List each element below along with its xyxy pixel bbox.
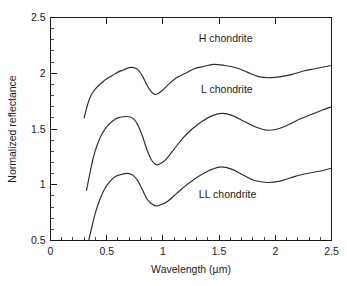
y-tick-label: 0.5 [31, 234, 46, 246]
series-curve-l-chondrite [86, 107, 331, 191]
series-annotation-h-chondrite: H chondrite [199, 32, 253, 44]
x-tick-label: 2.5 [324, 245, 339, 257]
axis-ticks [51, 18, 332, 241]
y-tick-label: 1 [40, 178, 46, 190]
axes-frame [51, 18, 332, 241]
series-curve-ll-chondrite [89, 167, 332, 241]
x-axis-title: Wavelength (µm) [151, 263, 231, 275]
y-tick-label: 2.5 [31, 11, 46, 23]
chart-text-labels: 0.511.522.500.511.522.5Wavelength (µm)No… [6, 11, 339, 274]
y-tick-label: 2 [40, 67, 46, 79]
y-axis-title: Normalized reflectance [6, 75, 18, 183]
plot-frame [51, 18, 332, 241]
series-annotation-ll-chondrite: LL chondrite [199, 188, 257, 200]
x-tick-label: 1 [160, 245, 166, 257]
x-tick-label: 2 [272, 245, 278, 257]
series-annotation-l-chondrite: L chondrite [201, 83, 253, 95]
x-tick-label: 1.5 [212, 245, 227, 257]
x-tick-label: 0.5 [99, 245, 114, 257]
chart-canvas: 0.511.522.500.511.522.5Wavelength (µm)No… [0, 0, 347, 286]
chart-figure: 0.511.522.500.511.522.5Wavelength (µm)No… [0, 0, 347, 286]
x-tick-label: 0 [48, 245, 54, 257]
y-tick-label: 1.5 [31, 123, 46, 135]
